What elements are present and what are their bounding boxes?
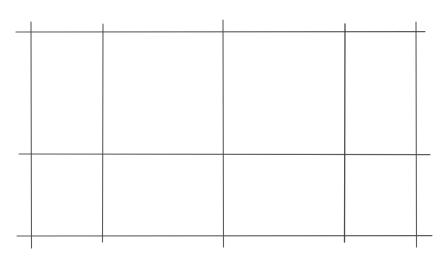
vertical-line-3 xyxy=(223,20,224,247)
horizontal-line-2 xyxy=(19,154,430,155)
vertical-line-2 xyxy=(103,24,104,242)
vertical-lines xyxy=(31,20,417,248)
vertical-line-1 xyxy=(31,22,32,248)
vertical-line-5 xyxy=(416,22,417,247)
horizontal-lines xyxy=(16,32,432,236)
vertical-line-4 xyxy=(345,24,346,242)
grid-sketch xyxy=(0,0,444,271)
